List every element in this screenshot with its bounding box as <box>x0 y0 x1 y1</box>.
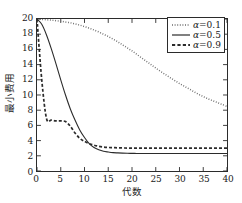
legend-alpha-value-3: =0.9 <box>199 40 221 50</box>
legend-swatch-dotted-icon <box>171 20 191 30</box>
x-tick-label: 25 <box>144 175 168 184</box>
x-tick-label: 40 <box>216 175 240 184</box>
legend-box: α=0.1 α=0.5 α=0.9 <box>167 17 225 53</box>
x-tick-label: 35 <box>192 175 216 184</box>
x-tick-label: 20 <box>120 175 144 184</box>
legend-label-alpha-0-5: α=0.5 <box>191 30 221 40</box>
legend-alpha-value-1: =0.1 <box>199 20 221 30</box>
x-tick-label: 30 <box>168 175 192 184</box>
x-tick-label: 10 <box>72 175 96 184</box>
legend-label-alpha-0-9: α=0.9 <box>191 40 221 50</box>
legend-item-alpha-0-5: α=0.5 <box>171 30 221 40</box>
legend-alpha-value-2: =0.5 <box>199 30 221 40</box>
legend-swatch-dashed-icon <box>171 40 191 50</box>
legend-label-alpha-0-1: α=0.1 <box>191 20 221 30</box>
x-tick-label: 0 <box>24 175 48 184</box>
y-axis-title: 最小费用 <box>5 55 15 131</box>
x-axis-title: 代数 <box>36 187 228 197</box>
x-tick-label: 15 <box>96 175 120 184</box>
legend-swatch-solid-icon <box>171 30 191 40</box>
x-tick-label: 5 <box>48 175 72 184</box>
figure-canvas: 02468101214161820 0510152025303540 α=0.1 <box>0 0 242 203</box>
legend-item-alpha-0-9: α=0.9 <box>171 40 221 50</box>
legend-item-alpha-0-1: α=0.1 <box>171 20 221 30</box>
